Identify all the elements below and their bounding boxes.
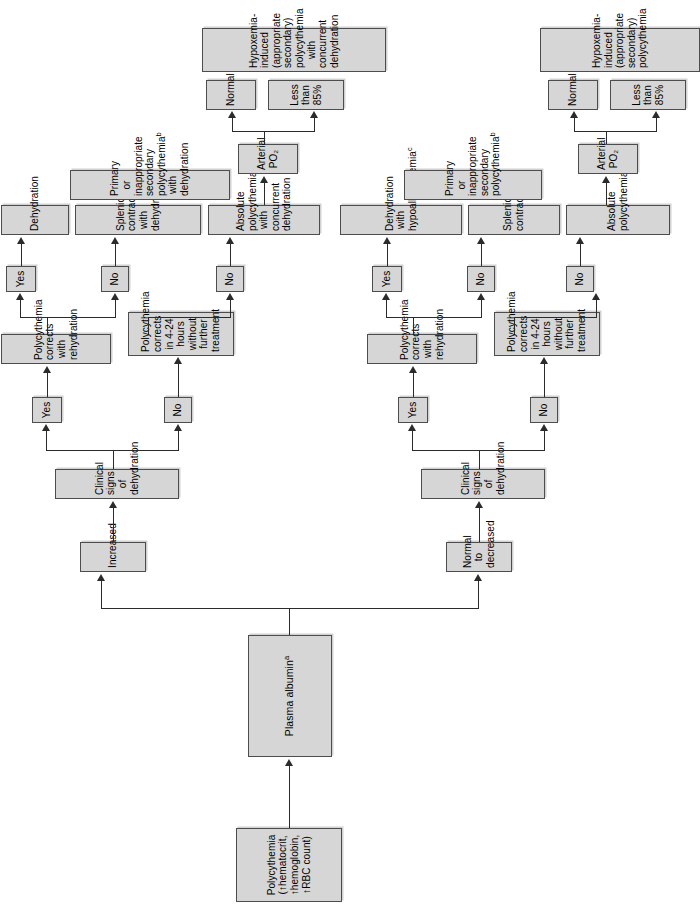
connector-top-rehyd-split xyxy=(20,317,115,318)
node-bot-clinical-signs: Clinical signs of dehydration xyxy=(421,469,545,499)
node-bot-corrects-rehydration: Polycythemia corrects with rehydration xyxy=(367,334,477,364)
node-top-yes-2-label: Yes xyxy=(15,270,27,288)
node-top-no-2: No xyxy=(101,266,129,292)
node-bot-no-1-label: No xyxy=(538,401,550,419)
node-top-corrects-rehydration-label: Polycythemia corrects with rehydration xyxy=(33,338,79,360)
arrowhead-top-yes1 xyxy=(42,424,50,431)
connector-top-4-24-to-no3 xyxy=(230,300,231,318)
node-top-clinical-signs: Clinical signs of dehydration xyxy=(55,469,179,499)
node-branch-normal-decreased-label: Normal to decreased xyxy=(462,546,497,568)
node-bot-clinical-signs-label: Clinical signs of dehydration xyxy=(460,473,506,495)
node-bot-yes-1-label: Yes xyxy=(407,401,419,419)
arrowhead-top-po2-low xyxy=(310,111,318,118)
node-branch-normal-decreased: Normal to decreased xyxy=(446,542,512,572)
node-top-yes-1: Yes xyxy=(32,397,62,423)
arrowhead-bot-no2 xyxy=(477,293,485,300)
connector-top-no3-to-absolute xyxy=(230,244,231,266)
node-top-normal-label: Normal xyxy=(225,84,237,106)
node-top-no-3-label: No xyxy=(224,270,236,288)
arrowhead-bot-yes2-to-dehyd-hypoalb xyxy=(383,237,391,244)
node-top-no-1: No xyxy=(164,397,192,423)
node-plasma-albumin: Plasma albumina xyxy=(248,635,332,757)
node-top-no-1-label: No xyxy=(172,401,184,419)
node-top-arterial-po2-label: Arterial PO₂ xyxy=(256,148,279,170)
footnote-marker-b-bot: b xyxy=(488,132,497,136)
connector-bot-no2-to-splenic xyxy=(481,244,482,266)
footnote-marker-c: c xyxy=(404,147,413,151)
node-top-normal: Normal xyxy=(206,80,256,110)
node-top-dehydration-label: Dehydration xyxy=(29,209,41,231)
node-branch-increased: Increased xyxy=(80,542,146,572)
node-bot-less-than-85: Less than 85% xyxy=(610,80,686,110)
connector-bot-po2-low-line xyxy=(656,118,657,132)
connector-top-clinical-split xyxy=(46,450,178,451)
node-bot-normal: Normal xyxy=(548,80,598,110)
connector-bot-rehyd-out xyxy=(413,318,414,334)
arrowhead-bot-no1-to-4-24 xyxy=(540,357,548,364)
arrowhead-bot-po2-normal xyxy=(570,111,578,118)
node-bot-absolute: Absolute polycythemia xyxy=(566,205,670,235)
arrowhead-bot-po2-low xyxy=(652,111,660,118)
node-bot-less-than-85-label: Less than 85% xyxy=(631,84,666,106)
connector-bot-po2-out xyxy=(606,132,607,144)
connector-bot-absolute-to-po2 xyxy=(606,183,607,205)
node-top-yes-1-label: Yes xyxy=(41,401,53,419)
footnote-marker-b-top: b xyxy=(153,132,162,136)
connector-top-clinical-out xyxy=(113,451,114,469)
connector-bot-po2-normal-line xyxy=(574,118,575,132)
connector-albumin-split-vertical xyxy=(101,608,478,609)
node-branch-increased-label: Increased xyxy=(107,546,119,568)
node-bot-hypoxemia-induced-label: Hypoxemia-induced (appropriate secondary… xyxy=(591,32,649,68)
arrowhead-top-no1 xyxy=(174,424,182,431)
connector-top-yes1-to-rehydration xyxy=(47,373,48,397)
node-top-primary-inappropriate-text: Primary or inappropriate secondary polyc… xyxy=(109,136,166,196)
arrowhead-bot-absolute-to-po2 xyxy=(602,176,610,183)
node-bot-corrects-rehydration-label: Polycythemia corrects with rehydration xyxy=(399,338,445,360)
node-top-no-2-label: No xyxy=(109,270,121,288)
connector-top-po2-low-line xyxy=(314,118,315,132)
node-bot-arterial-po2: Arterial PO₂ xyxy=(578,144,638,174)
node-bot-primary-inappropriate: Primary or inappropriate secondary polyc… xyxy=(404,170,542,200)
node-top-primary-inappropriate-tail: with dehydration xyxy=(167,143,190,196)
connector-bot-no3-to-absolute xyxy=(580,244,581,266)
node-start-label: Polycythemia (↑hematocrit, ↑hemoglobin, … xyxy=(266,832,312,898)
node-top-corrects-4-24-label: Polycythemia corrects in 4-24 hours with… xyxy=(140,316,221,352)
connector-albumin-out xyxy=(289,609,290,635)
node-top-less-than-85: Less than 85% xyxy=(268,80,344,110)
connector-bot-yes2-to-dehyd-hypoalb xyxy=(387,244,388,266)
connector-top-yes2-line xyxy=(20,300,21,318)
node-bot-dehydration-hypoalbuminemia: Dehydration with hypoalbuminemiac xyxy=(340,205,462,235)
connector-top-no2-to-splenic xyxy=(115,244,116,266)
node-top-less-than-85-label: Less than 85% xyxy=(289,84,324,106)
arrowhead-top-no2 xyxy=(111,293,119,300)
connector-bot-yes2-line xyxy=(386,300,387,318)
connector-top-rehyd-out xyxy=(47,318,48,334)
arrowhead-bot-no2-to-splenic xyxy=(477,237,485,244)
node-bot-corrects-4-24: Polycythemia corrects in 4-24 hours with… xyxy=(494,312,600,356)
node-top-splenic-dehydration: Splenic contraction with dehydration xyxy=(75,205,201,235)
node-top-splenic-dehydration-label: Splenic contraction with dehydration xyxy=(115,209,161,231)
node-start: Polycythemia (↑hematocrit, ↑hemoglobin, … xyxy=(236,828,342,902)
node-bot-hypoxemia-induced: Hypoxemia-induced (appropriate secondary… xyxy=(540,28,700,72)
node-bot-no-3: No xyxy=(566,266,594,292)
node-top-primary-inappropriate-label: Primary or inappropriate secondary polyc… xyxy=(109,174,190,196)
node-bot-no-1: No xyxy=(530,397,558,423)
arrowhead-to-increased xyxy=(97,574,105,581)
connector-top-yes2-to-dehydration xyxy=(21,244,22,266)
node-top-hypoxemia-induced-label: Hypoxemia-induced (appropriate secondary… xyxy=(248,32,341,68)
arrowhead-top-no3 xyxy=(226,293,234,300)
arrowhead-top-no2-to-splenic xyxy=(111,237,119,244)
arrowhead-increased-to-clinical xyxy=(109,501,117,508)
node-bot-dehydration-hypoalbuminemia-label: Dehydration with hypoalbuminemiac xyxy=(384,209,419,231)
node-top-corrects-4-24: Polycythemia corrects in 4-24 hours with… xyxy=(128,312,234,356)
footnote-marker-a: a xyxy=(282,656,291,660)
arrowhead-bot-yes1-to-rehydration xyxy=(409,366,417,373)
arrowhead-bot-no1 xyxy=(540,424,548,431)
connector-to-increased xyxy=(101,581,102,609)
connector-bot-no1-line xyxy=(544,431,545,451)
node-bot-splenic: Splenic contraction xyxy=(468,205,560,235)
connector-bot-po2-split xyxy=(574,131,656,132)
connector-bot-no2-line xyxy=(481,300,482,318)
connector-bot-no1-to-4-24 xyxy=(544,364,545,397)
node-bot-primary-inappropriate-label: Primary or inappropriate secondary polyc… xyxy=(444,174,502,196)
